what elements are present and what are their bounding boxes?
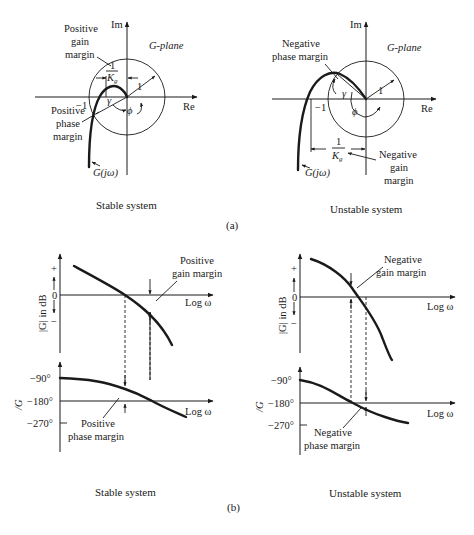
phi-label: ϕ — [127, 105, 133, 116]
zero-label: 0 — [292, 292, 297, 303]
bode-unstable-panel: 0 + − |G| in dB Log ω Negative gain marg… — [254, 254, 455, 499]
phase-margin-label-2: phase margin — [68, 431, 125, 442]
phase-margin-label-1: Positive — [81, 418, 115, 429]
bode-stable-panel: 0 + − |G| in dB Log ω Positive gain marg… — [13, 254, 223, 498]
stable-caption-b: Stable system — [95, 486, 156, 498]
minus-label: − — [51, 316, 57, 327]
gain-margin-label-1: Negative — [384, 254, 422, 265]
re-axis-label: Re — [421, 103, 433, 114]
phase-margin-leader — [343, 408, 361, 428]
gain-margin-leader — [156, 281, 177, 301]
plus-label: + — [51, 263, 57, 274]
zero-label: 0 — [52, 290, 57, 301]
im-axis-label: Im — [111, 19, 123, 30]
re-axis-label: Re — [183, 101, 195, 112]
gamma-label: γ — [342, 88, 347, 99]
kg-numerator: 1 — [336, 136, 341, 147]
phase-margin-label-3: margin — [53, 131, 83, 142]
magnitude-curve — [74, 266, 172, 345]
gain-margin-label-2: gain margin — [376, 267, 427, 278]
phase-axis-label: /G — [13, 399, 24, 411]
gain-margin-label-3: margin — [65, 49, 95, 60]
gain-margin-label-3: margin — [384, 175, 414, 186]
figure-canvas: Im Re G-plane 1 −1 G(jω) γ ϕ 1 Kg Positi… — [0, 0, 474, 535]
phase-tick-180: −180° — [268, 398, 294, 409]
phase-margin-label-2: phase margin — [304, 440, 361, 451]
kg-denominator: Kg — [106, 72, 118, 85]
g-plane-text: G-plane — [149, 40, 184, 51]
mag-axis-label: |G| in dB — [277, 297, 288, 334]
gain-margin-label-2: gain — [390, 162, 409, 173]
phase-tick-270: −270° — [27, 418, 53, 429]
phase-line — [96, 97, 127, 114]
gamma-arc — [113, 105, 126, 110]
phase-tick-180: −180° — [27, 396, 53, 407]
gain-margin-label-2: gain — [71, 36, 90, 47]
minus-label: − — [291, 318, 297, 329]
gain-margin-leader — [97, 57, 111, 66]
phase-margin-label-1: Negative — [282, 38, 320, 49]
part-b-label: (b) — [227, 501, 240, 514]
curve-label: G(jω) — [93, 167, 118, 179]
gain-margin-label-1: Positive — [64, 23, 98, 34]
kg-denominator: Kg — [331, 150, 343, 163]
phase-margin-label-1: Negative — [314, 427, 352, 438]
radius-label: 1 — [378, 85, 383, 96]
phase-tick-90: −90° — [30, 373, 51, 384]
nyquist-unstable-panel: Im Re G-plane 1 −1 G(jω) γ ϕ 1 Kg Negati… — [272, 19, 436, 215]
phase-axis-label: /G — [254, 401, 265, 413]
phase-x-label: Log ω — [185, 406, 212, 417]
gain-margin-label-1: Positive — [180, 255, 214, 266]
phi-arc — [137, 103, 142, 114]
gain-margin-label-2: gain margin — [172, 268, 223, 279]
phase-margin-label-2: phase margin — [272, 51, 329, 62]
mag-x-label: Log ω — [427, 301, 454, 312]
phase-tick-90: −90° — [271, 375, 292, 386]
curve-label: G(jω) — [305, 167, 330, 179]
unstable-caption-a: Unstable system — [330, 203, 403, 215]
g-plane-label: G-plane — [149, 40, 184, 51]
radius-label: 1 — [137, 81, 142, 92]
curve-label-arrow — [92, 162, 100, 166]
im-axis-label: Im — [350, 19, 362, 30]
gamma-arc — [333, 79, 336, 94]
phase-margin-label-2: phase — [56, 118, 80, 129]
phase-x-label: Log ω — [427, 408, 454, 419]
gain-margin-label-1: Negative — [379, 149, 417, 160]
part-a-label: (a) — [226, 219, 239, 232]
g-plane-label: G-plane — [387, 42, 422, 53]
unstable-caption-b: Unstable system — [329, 487, 402, 499]
phase-tick-270: −270° — [268, 420, 294, 431]
phase-margin-leader — [325, 64, 338, 79]
minus-one-label: −1 — [315, 102, 326, 113]
phase-curve — [300, 380, 408, 423]
gain-margin-leader — [348, 153, 376, 160]
mag-axis-label: |G| in dB — [37, 295, 48, 332]
plus-label: + — [291, 263, 297, 274]
mag-x-label: Log ω — [185, 297, 212, 308]
stable-caption-a: Stable system — [96, 199, 157, 211]
phase-curve — [60, 378, 186, 417]
nyquist-stable-panel: Im Re G-plane 1 −1 G(jω) γ ϕ 1 Kg Positi… — [35, 19, 197, 211]
phase-margin-label-1: Positive — [51, 105, 85, 116]
